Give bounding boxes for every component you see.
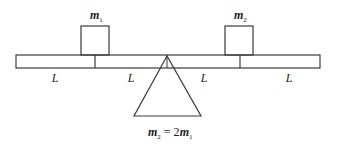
label-m2: m2 (234, 8, 247, 24)
block-m1 (81, 26, 109, 55)
mass-relation: m2 = 2m1 (148, 125, 193, 141)
segment-label-3: L (200, 71, 208, 85)
seesaw-diagram: m1 m2 L L L L m2 = 2m1 (0, 0, 337, 153)
segment-label-1: L (51, 71, 59, 85)
segment-label-2: L (127, 71, 135, 85)
block-m2 (225, 26, 253, 55)
segment-label-4: L (285, 71, 293, 85)
label-m1: m1 (90, 8, 103, 24)
